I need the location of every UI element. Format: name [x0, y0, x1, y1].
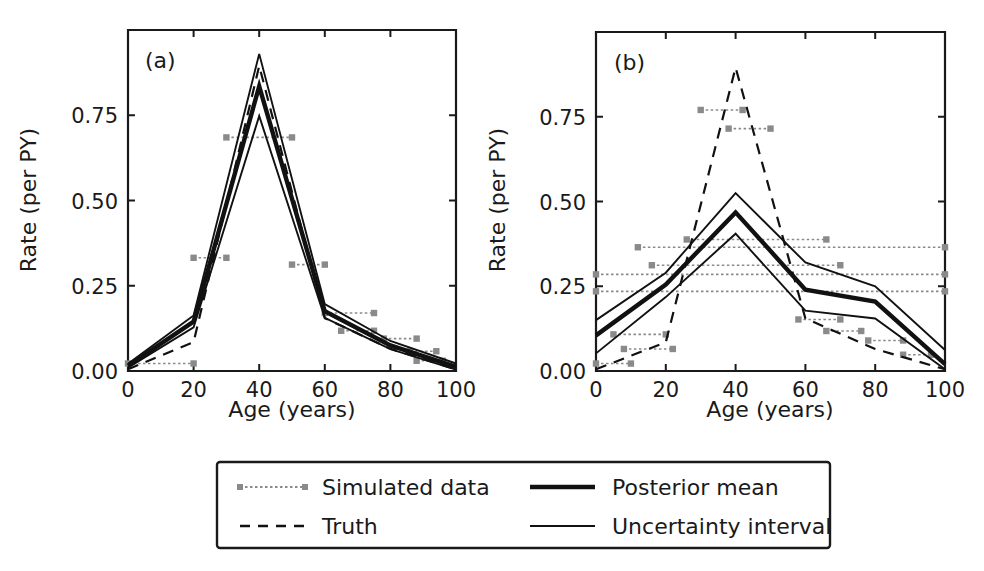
ytick-label-0.25: 0.25 [539, 275, 586, 299]
ytick-label-0.5: 0.50 [71, 190, 118, 214]
xtick-label-80: 80 [377, 378, 404, 402]
xtick-label-100: 100 [925, 378, 965, 402]
panel-b-ticks [596, 32, 945, 371]
simulated-data-marker [371, 310, 377, 316]
simulated-data-marker [837, 262, 843, 268]
simulated-data-marker [593, 360, 599, 366]
simulated-data-marker [649, 262, 655, 268]
xtick-label-80: 80 [862, 378, 889, 402]
simulated-data-marker [621, 346, 627, 352]
simulated-data-marker [223, 134, 229, 140]
simulated-data-marker [865, 337, 871, 343]
simulated-data-marker [942, 244, 948, 250]
simulated-data-marker [338, 328, 344, 334]
panel-b-tag: (b) [614, 50, 645, 75]
xtick-label-20: 20 [652, 378, 679, 402]
panel-a-ylabel: Rate (per PY) [16, 128, 41, 272]
simulated-data-marker [593, 271, 599, 277]
legend-label-posterior-mean: Posterior mean [612, 475, 779, 500]
figure-root: 0204060801000.000.250.500.75 (a) Age (ye… [0, 0, 984, 571]
ytick-label-0: 0.00 [71, 360, 118, 384]
simulated-data-marker [289, 134, 295, 140]
legend-swatch-simulated-cap-left-icon [237, 484, 243, 490]
panel-b-axes [596, 32, 945, 371]
simulated-data-marker [289, 261, 295, 267]
ytick-label-0.25: 0.25 [71, 275, 118, 299]
panel-a-xlabel: Age (years) [228, 397, 355, 422]
series-posterior-mean [596, 212, 945, 364]
simulated-data-marker [795, 316, 801, 322]
panel-b-frame [596, 32, 945, 371]
simulated-data-marker [628, 360, 634, 366]
panel-b-ylabel: Rate (per PY) [485, 128, 510, 272]
simulated-data-marker [942, 288, 948, 294]
series-truth [596, 68, 945, 370]
simulated-data-marker [593, 288, 599, 294]
xtick-label-0: 0 [121, 378, 134, 402]
panel-b: 0204060801000.000.250.500.75 (b) Age (ye… [485, 32, 965, 422]
simulated-data-marker [635, 244, 641, 250]
simulated-data-marker [223, 255, 229, 261]
ytick-label-0.5: 0.50 [539, 191, 586, 215]
legend-label-simulated: Simulated data [322, 475, 490, 500]
simulated-data-marker [823, 328, 829, 334]
simulated-data-marker [322, 261, 328, 267]
legend-label-truth: Truth [321, 514, 378, 539]
two-panel-rate-figure: 0204060801000.000.250.500.75 (a) Age (ye… [0, 0, 984, 571]
simulated-data-marker [670, 346, 676, 352]
xtick-label-0: 0 [589, 378, 602, 402]
xtick-label-20: 20 [180, 378, 207, 402]
panel-a-series [128, 54, 456, 370]
panel-a-tag: (a) [145, 48, 176, 73]
legend-swatch-simulated-cap-right-icon [302, 484, 308, 490]
simulated-data-marker [698, 107, 704, 113]
ytick-label-0.75: 0.75 [539, 106, 586, 130]
panel-a: 0204060801000.000.250.500.75 (a) Age (ye… [16, 30, 476, 422]
panel-b-simulated-data [593, 107, 948, 367]
simulated-data-marker [413, 335, 419, 341]
legend-label-uncertainty-interval: Uncertainty interval [612, 514, 831, 539]
xtick-label-100: 100 [436, 378, 476, 402]
simulated-data-marker [837, 316, 843, 322]
panel-b-xlabel: Age (years) [706, 397, 833, 422]
simulated-data-marker [433, 348, 439, 354]
simulated-data-marker [190, 255, 196, 261]
ytick-label-0: 0.00 [539, 360, 586, 384]
panel-b-series [596, 68, 945, 370]
simulated-data-marker [767, 125, 773, 131]
simulated-data-marker [739, 107, 745, 113]
simulated-data-marker [942, 271, 948, 277]
legend: Simulated data Truth Posterior mean Unce… [217, 462, 831, 548]
simulated-data-marker [684, 236, 690, 242]
series-posterior-mean [128, 86, 456, 367]
ytick-label-0.75: 0.75 [71, 104, 118, 128]
simulated-data-marker [858, 328, 864, 334]
series-uncertainty-interval-upper [128, 54, 456, 364]
simulated-data-marker [823, 236, 829, 242]
simulated-data-marker [725, 125, 731, 131]
simulated-data-marker [190, 360, 196, 366]
